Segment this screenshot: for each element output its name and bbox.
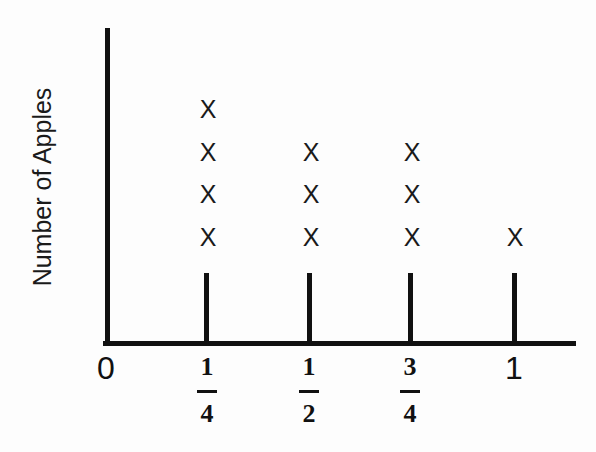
data-mark: X [193, 139, 223, 165]
data-mark: X [500, 224, 530, 250]
tick-three-quarters [408, 273, 413, 343]
data-mark: X [193, 181, 223, 207]
x-tick-label-one-half: 1 2 [289, 352, 329, 429]
denominator: 2 [289, 399, 329, 429]
data-mark: X [296, 139, 326, 165]
numerator: 1 [289, 352, 329, 382]
x-tick-label-one: 1 [494, 350, 534, 386]
fraction-bar [197, 390, 217, 393]
numerator: 3 [390, 352, 430, 382]
fraction-bar [299, 390, 319, 393]
denominator: 4 [390, 399, 430, 429]
x-axis-line [103, 341, 576, 346]
x-tick-label-zero: 0 [86, 350, 126, 386]
data-mark: X [193, 96, 223, 122]
tick-one-quarter [204, 273, 209, 343]
data-mark: X [296, 224, 326, 250]
line-plot: Number of Apples X X X X X X X X X X X 0… [0, 0, 596, 452]
y-axis-label: Number of Apples [28, 88, 57, 287]
x-tick-label-one-quarter: 1 4 [187, 352, 227, 429]
data-mark: X [397, 181, 427, 207]
numerator: 1 [187, 352, 227, 382]
data-mark: X [296, 181, 326, 207]
tick-one-half [307, 273, 312, 343]
data-mark: X [397, 139, 427, 165]
denominator: 4 [187, 399, 227, 429]
data-mark: X [193, 224, 223, 250]
fraction-bar [400, 390, 420, 393]
data-mark: X [397, 224, 427, 250]
tick-one [512, 273, 517, 343]
y-axis-line [105, 28, 110, 346]
x-tick-label-three-quarters: 3 4 [390, 352, 430, 429]
